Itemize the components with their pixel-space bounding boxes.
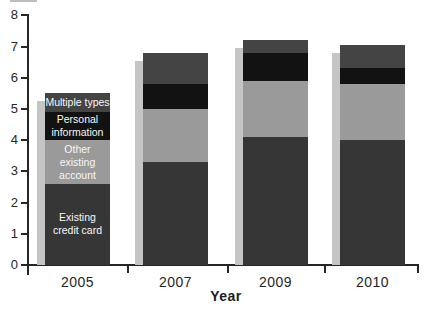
bar-segment-multiple-types-2005: Multiple types (45, 93, 110, 112)
bar-segment-multiple-types-2009 (243, 40, 308, 52)
y-tick-label-8: 8 (0, 7, 18, 23)
bar-segment-existing-credit-card-2005: Existingcredit card (45, 184, 110, 265)
segment-label-multiple-types: Multiple types (45, 96, 109, 109)
segment-label-other-existing-account: existing (60, 156, 96, 169)
bar-segment-personal-information-2010 (340, 68, 405, 84)
x-tick-4 (417, 265, 419, 273)
y-tick-label-3: 3 (0, 163, 18, 179)
y-tick-label-2: 2 (0, 195, 18, 211)
y-axis-line (27, 14, 29, 275)
bar-segment-other-existing-account-2007 (143, 109, 208, 162)
segment-label-other-existing-account: account (59, 169, 96, 182)
y-tick-label-6: 6 (0, 70, 18, 86)
y-tick-8 (21, 14, 28, 16)
y-tick-label-1: 1 (0, 226, 18, 242)
y-tick-label-0: 0 (0, 257, 18, 273)
bar-segment-other-existing-account-2010 (340, 84, 405, 140)
y-tick-label-7: 7 (0, 39, 18, 55)
bar-segment-personal-information-2007 (143, 84, 208, 109)
x-axis-title: Year (126, 288, 326, 304)
bar-segment-existing-credit-card-2009 (243, 137, 308, 265)
y-tick-4 (21, 139, 28, 141)
bar-segment-other-existing-account-2005: Otherexistingaccount (45, 140, 110, 184)
x-tick-2 (227, 265, 229, 273)
bar-segment-existing-credit-card-2007 (143, 162, 208, 265)
x-tick-1 (127, 265, 129, 273)
bar-segment-other-existing-account-2009 (243, 81, 308, 137)
category-label-2010: 2010 (341, 274, 405, 290)
y-tick-3 (21, 170, 28, 172)
segment-label-existing-credit-card: Existing (59, 211, 96, 224)
segment-label-personal-information: information (52, 126, 104, 139)
stacked-bar-chart-figure: 012345678 Existingcredit cardOtherexisti… (0, 0, 429, 313)
x-tick-0 (27, 265, 29, 273)
y-tick-6 (21, 77, 28, 79)
figure-top-rule (10, 0, 37, 2)
x-tick-3 (324, 265, 326, 273)
y-tick-2 (21, 202, 28, 204)
y-tick-label-5: 5 (0, 101, 18, 117)
bar-segment-multiple-types-2007 (143, 53, 208, 84)
bar-segment-personal-information-2005: Personalinformation (45, 112, 110, 140)
segment-label-other-existing-account: Other (64, 143, 90, 156)
y-tick-5 (21, 108, 28, 110)
segment-label-personal-information: Personal (57, 113, 98, 126)
bar-segment-multiple-types-2010 (340, 45, 405, 68)
category-label-2005: 2005 (46, 274, 110, 290)
bar-segment-personal-information-2009 (243, 53, 308, 81)
segment-label-existing-credit-card: credit card (53, 224, 102, 237)
y-tick-7 (21, 46, 28, 48)
y-tick-label-4: 4 (0, 132, 18, 148)
bar-segment-existing-credit-card-2010 (340, 140, 405, 265)
y-tick-1 (21, 233, 28, 235)
